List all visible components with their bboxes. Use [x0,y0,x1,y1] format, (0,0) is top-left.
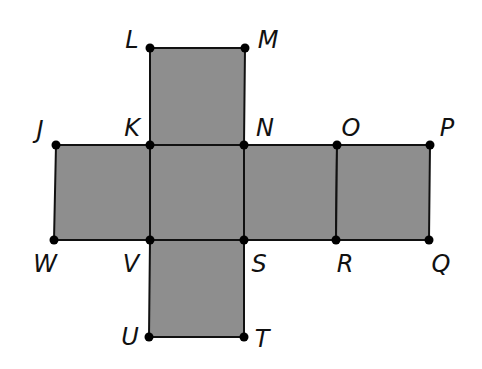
vertex-dot-j [52,141,61,150]
vertex-dot-p [426,141,435,150]
vertex-label-k: K [124,116,140,140]
vertex-label-n: N [256,116,274,140]
face-nors [244,145,337,240]
vertex-label-w: W [33,252,57,276]
vertex-dot-v [146,236,155,245]
face-jkvw [54,145,150,240]
face-opqr [336,145,430,240]
cube-net-figure [0,0,482,369]
face-knsv [150,145,244,240]
vertex-label-m: M [258,28,279,52]
vertex-label-p: P [440,116,454,140]
vertex-dot-s [240,236,249,245]
vertex-dot-o [333,141,342,150]
vertex-label-l: L [125,28,138,52]
vertex-label-s: S [251,252,266,276]
vertex-label-u: U [121,325,139,349]
vertex-dot-r [332,236,341,245]
vertex-label-q: Q [432,252,451,276]
vertex-label-o: O [342,116,361,140]
face-vstu [149,240,244,337]
vertex-dot-n [240,141,249,150]
vertex-dot-q [425,236,434,245]
vertex-label-j: J [36,118,43,142]
vertex-label-r: R [337,252,354,276]
face-lmnk [150,48,245,145]
vertex-dot-u [145,333,154,342]
vertex-dot-k [146,141,155,150]
vertex-dot-m [241,44,250,53]
vertex-label-v: V [123,252,139,276]
vertex-dot-t [240,333,249,342]
cube-net-diagram: LMJKNOPWVSRQUT [0,0,482,369]
vertex-dot-w [50,236,59,245]
vertex-dot-l [146,44,155,53]
vertex-label-t: T [255,327,270,351]
